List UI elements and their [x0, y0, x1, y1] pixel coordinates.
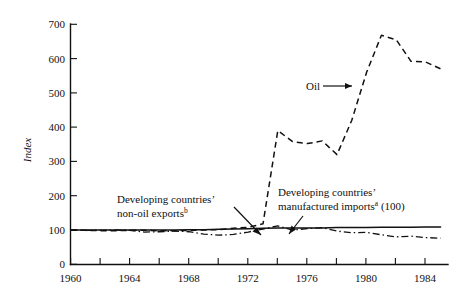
- y-tick-label: 0: [60, 258, 66, 270]
- non-oil-exports-superscript: b: [184, 206, 188, 215]
- non-oil-exports-label-line1: Developing countries’: [117, 193, 215, 205]
- manufactured-imports-label-text: manufactured imports: [278, 200, 375, 212]
- x-tick-label: 1964: [119, 272, 142, 284]
- oil-label: Oil: [306, 80, 320, 92]
- x-tick-label: 1972: [237, 272, 259, 284]
- index-line-chart: 700 600 500 400 300 200 100 0 Index: [0, 0, 464, 304]
- y-tick-label: 600: [49, 53, 66, 65]
- y-tick-label: 100: [49, 224, 66, 236]
- manufactured-imports-suffix: (100): [378, 200, 405, 213]
- y-tick-label: 700: [49, 18, 66, 30]
- x-tick-label: 1968: [178, 272, 201, 284]
- x-tick-label: 1976: [296, 272, 319, 284]
- y-tick-label: 500: [49, 87, 66, 99]
- x-tick-label: 1984: [414, 272, 437, 284]
- chart-figure: 700 600 500 400 300 200 100 0 Index: [0, 0, 464, 304]
- y-axis-title: Index: [21, 138, 33, 164]
- chart-background: [0, 0, 464, 304]
- non-oil-exports-label-line2: non-oil exportsb: [117, 206, 188, 219]
- x-tick-label: 1960: [60, 272, 83, 284]
- y-tick-label: 300: [49, 155, 66, 167]
- y-tick-label: 200: [49, 190, 66, 202]
- manufactured-imports-label-line2: manufactured importsa (100): [278, 199, 405, 213]
- y-tick-label: 400: [49, 121, 66, 133]
- manufactured-imports-label-line1: Developing countries’: [278, 186, 376, 198]
- non-oil-exports-label-text: non-oil exports: [117, 207, 184, 219]
- x-tick-label: 1980: [355, 272, 378, 284]
